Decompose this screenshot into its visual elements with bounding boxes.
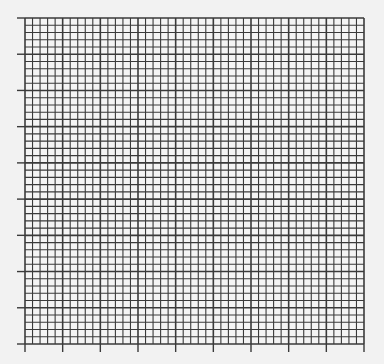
graph-paper-grid (0, 0, 384, 364)
grid-area (25, 18, 364, 344)
